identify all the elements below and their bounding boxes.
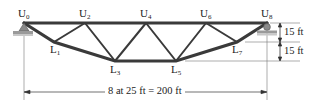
bottom-chord	[24, 23, 267, 61]
node-label-L5: L5	[171, 64, 181, 77]
member-L3-U4	[115, 23, 146, 61]
member-L1-U2	[54, 23, 85, 42]
node-label-L1: L1	[50, 44, 60, 57]
member-U6-L7	[206, 23, 237, 42]
node-label-U2: U2	[79, 8, 90, 21]
height-dimension-lower: 15 ft	[284, 46, 304, 57]
node-label-L7: L7	[232, 44, 242, 57]
node-label-U6: U6	[200, 8, 211, 21]
height-dimension-upper: 15 ft	[284, 27, 304, 38]
node-label-U8: U8	[261, 8, 272, 21]
span-dimension-label: 8 at 25 ft = 200 ft	[108, 86, 182, 97]
truss-members	[24, 23, 267, 61]
roller-support-icon	[257, 24, 277, 36]
member-U4-L5	[146, 23, 176, 61]
node-label-L3: L3	[110, 64, 120, 77]
node-label-U4: U4	[140, 8, 151, 21]
node-label-U0: U0	[18, 8, 29, 21]
